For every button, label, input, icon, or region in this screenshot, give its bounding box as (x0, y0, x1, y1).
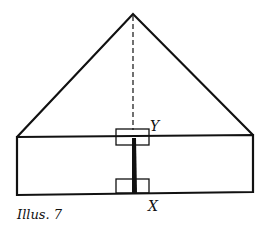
king-post (132, 138, 137, 193)
label-x: X (147, 198, 159, 214)
illustration-diagram: Y X Illus. 7 (0, 0, 269, 229)
label-y: Y (150, 118, 161, 134)
caption: Illus. 7 (16, 207, 63, 222)
roof-triangle (17, 14, 253, 137)
